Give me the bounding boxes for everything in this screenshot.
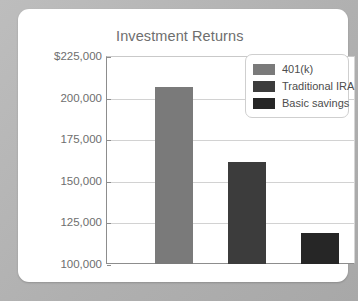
chart-screenshot: Investment Returns $225,000200,000175,00…	[0, 0, 358, 301]
y-axis-label-group: $225,000200,000175,000150,000125,000100,…	[18, 9, 102, 301]
bar	[301, 233, 339, 264]
legend-item: Basic savings	[253, 95, 340, 111]
legend-item-label: Traditional IRA	[282, 80, 354, 92]
bar	[155, 87, 193, 264]
legend-swatch-icon	[253, 64, 275, 75]
y-axis-tick-label: 125,000	[60, 216, 102, 228]
legend-swatch-icon	[253, 98, 275, 109]
y-axis-tick-label: 150,000	[60, 175, 102, 187]
y-axis-tick-label: 175,000	[60, 133, 102, 145]
y-axis-tick-label: $225,000	[54, 50, 102, 62]
chart-legend: 401(k)Traditional IRABasic savings	[245, 54, 349, 118]
legend-item-label: Basic savings	[282, 97, 349, 109]
legend-swatch-icon	[253, 81, 275, 92]
legend-item-label: 401(k)	[282, 63, 313, 75]
legend-item: Traditional IRA	[253, 78, 340, 94]
y-axis-tick	[107, 265, 111, 266]
chart-card: Investment Returns $225,000200,000175,00…	[18, 9, 348, 282]
y-axis-tick-label: 100,000	[60, 258, 102, 270]
legend-item: 401(k)	[253, 61, 340, 77]
chart-title: Investment Returns	[116, 28, 244, 44]
bar	[228, 162, 266, 264]
y-axis-tick-label: 200,000	[60, 92, 102, 104]
